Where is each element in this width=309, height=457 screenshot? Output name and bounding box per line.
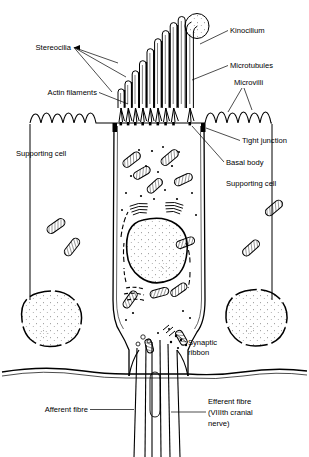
label-synaptic-ribbon-line1: Synaptic xyxy=(188,338,217,347)
label-synaptic-ribbon-line2: ribbon xyxy=(188,348,209,357)
microvilli-right xyxy=(205,112,272,123)
stereocilium xyxy=(170,23,177,108)
label-supporting-cell-right: Supporting cell xyxy=(226,179,277,188)
label-tight-junction: Tight junction xyxy=(206,128,287,145)
label-actin-filaments: Actin filaments xyxy=(48,88,128,104)
label-microvilli-text: Microvilli xyxy=(234,78,263,87)
stereocilium xyxy=(140,61,147,108)
microvilli-left xyxy=(30,113,113,123)
label-efferent-fibre: Efferent fibre (VIIIth cranial nerve) xyxy=(171,397,253,428)
label-efferent-fibre-line3: nerve) xyxy=(208,419,230,428)
label-tight-junction-text: Tight junction xyxy=(242,136,287,145)
stereocilium xyxy=(132,71,138,108)
label-actin-filaments-text: Actin filaments xyxy=(48,88,98,97)
golgi-apparatus xyxy=(129,201,183,215)
kinocilium xyxy=(185,14,209,109)
label-supporting-cell-right-text: Supporting cell xyxy=(226,179,277,188)
label-stereocilia: Stereocilia xyxy=(36,43,126,92)
label-microtubules-text: Microtubules xyxy=(230,61,273,70)
label-basal-body-text: Basal body xyxy=(226,158,264,167)
nucleus xyxy=(127,218,188,283)
nerve-fibres xyxy=(129,340,188,457)
label-supporting-cell-left-text: Supporting cell xyxy=(16,149,67,158)
label-stereocilia-text: Stereocilia xyxy=(36,43,72,52)
label-microvilli: Microvilli xyxy=(228,78,263,112)
actin-rootlets xyxy=(119,108,194,122)
kinocilium-knob xyxy=(185,14,209,39)
label-basal-body: Basal body xyxy=(192,126,264,167)
label-kinocilium-text: Kinocilium xyxy=(230,26,265,35)
stereocilium xyxy=(118,89,124,108)
nucleolus xyxy=(159,263,170,274)
label-efferent-fibre-line2: (VIIIth cranial xyxy=(208,408,253,417)
label-efferent-fibre-line1: Efferent fibre xyxy=(208,397,251,406)
basement-membrane xyxy=(2,368,307,378)
label-kinocilium: Kinocilium xyxy=(200,26,265,44)
stereocilium xyxy=(162,31,169,108)
stereocilium xyxy=(147,49,154,108)
stereocilia-bundle xyxy=(118,17,185,109)
label-supporting-cell-left: Supporting cell xyxy=(16,149,67,158)
supporting-cell-nucleus-left xyxy=(22,291,82,347)
supporting-cell-nucleus-right xyxy=(226,290,287,347)
label-afferent-fibre: Afferent fibre xyxy=(45,405,134,414)
hair-cell-diagram: Stereocilia Actin filaments Kinocilium M… xyxy=(0,0,309,457)
stereocilium xyxy=(155,39,162,108)
stereocilium xyxy=(178,17,185,109)
label-afferent-fibre-text: Afferent fibre xyxy=(45,405,88,414)
stereocilium xyxy=(125,81,131,108)
